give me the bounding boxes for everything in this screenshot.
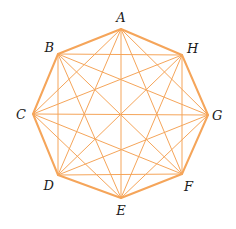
complete-graph-diagram: AHGFEDCB xyxy=(0,0,236,229)
vertex-label-b: B xyxy=(43,40,54,55)
edge-ED xyxy=(58,175,121,198)
vertex-label-g: G xyxy=(212,108,222,123)
vertex-label-f: F xyxy=(183,179,194,194)
vertex-label-h: H xyxy=(186,41,199,56)
edge-FD xyxy=(58,174,182,175)
vertex-label-d: D xyxy=(43,178,55,193)
edge-HC xyxy=(33,55,182,114)
edge-HB xyxy=(58,54,182,55)
edge-DC xyxy=(33,114,58,175)
edge-CB xyxy=(33,54,58,114)
vertex-label-c: C xyxy=(16,107,26,122)
vertex-label-e: E xyxy=(115,203,126,218)
vertex-label-a: A xyxy=(115,10,125,25)
edge-FC xyxy=(33,114,182,174)
